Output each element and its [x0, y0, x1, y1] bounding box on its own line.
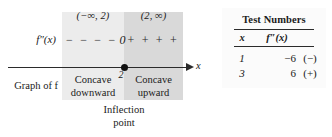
cell-sign: (+) — [300, 67, 320, 79]
table-column-header-x: x — [234, 32, 250, 43]
zero-marker: 0 — [118, 33, 128, 48]
interval-label-right: (2, ∞) — [124, 10, 183, 21]
concavity-right: Concave upward — [124, 73, 183, 99]
concavity-left: Concave downward — [62, 73, 124, 99]
inflection-caption-line2: point — [84, 116, 164, 129]
concavity-number-line-diagram: (−∞, 2) (2, ∞) f″(x) − − − − 0 + + + + x… — [0, 0, 200, 137]
concavity-left-line1: Concave — [62, 73, 124, 86]
table-rule-under-headers — [234, 46, 314, 47]
x-axis-label: x — [196, 60, 201, 71]
table-rule-under-title — [234, 29, 314, 30]
cell-x: 3 — [234, 67, 250, 79]
table-row: 1 −6 (−) — [222, 52, 326, 67]
inflection-point-caption: Inflection point — [84, 103, 164, 129]
cell-value: −6 — [256, 52, 296, 64]
inflection-caption-line1: Inflection — [84, 103, 164, 116]
negative-signs: − − − − — [66, 33, 117, 48]
concavity-left-line2: downward — [62, 86, 124, 99]
positive-signs: + + + + — [128, 33, 179, 48]
graph-of-f-label: Graph of f — [2, 80, 58, 91]
x-axis-line — [8, 67, 188, 68]
second-derivative-label: f″(x) — [8, 33, 56, 45]
test-numbers-title: Test Numbers — [222, 14, 326, 25]
test-numbers-table: Test Numbers x f″(x) 1 −6 (−) 3 6 (+) — [222, 8, 326, 88]
table-row: 3 6 (+) — [222, 67, 326, 82]
x-axis-arrow-icon — [186, 63, 194, 71]
graph-of-f-text: Graph of f — [14, 80, 58, 91]
concavity-right-line1: Concave — [124, 73, 183, 86]
cell-value: 6 — [256, 67, 296, 79]
table-column-header-fpp: f″(x) — [258, 32, 296, 43]
sign-row: − − − − 0 + + + + — [62, 33, 183, 48]
cell-sign: (−) — [300, 52, 320, 64]
cell-x: 1 — [234, 52, 250, 64]
interval-label-left: (−∞, 2) — [62, 10, 124, 21]
concavity-right-line2: upward — [124, 86, 183, 99]
table-header-row: x f″(x) — [222, 32, 326, 46]
